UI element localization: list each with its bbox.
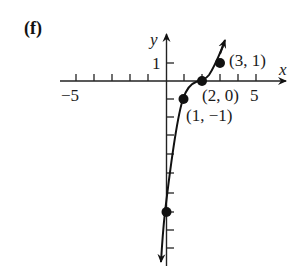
tick-label-neg5: −5 bbox=[61, 86, 79, 105]
tick-label-5: 5 bbox=[250, 86, 259, 105]
point-0-neg8 bbox=[162, 207, 172, 217]
point-3-1 bbox=[215, 58, 225, 68]
label-point-2-0: (2, 0) bbox=[202, 86, 239, 105]
tick-label-1: 1 bbox=[152, 54, 161, 73]
y-axis-label: y bbox=[148, 30, 158, 49]
label-point-1-neg1: (1, −1) bbox=[186, 106, 232, 125]
x-axis-label: x bbox=[278, 60, 287, 79]
point-2-0 bbox=[197, 76, 207, 86]
point-1-neg1 bbox=[179, 94, 189, 104]
curve-top-arrow bbox=[220, 40, 225, 54]
cubic-graph: y x 1 −5 5 (3, 1) (2, 0) (1, −1) bbox=[0, 0, 306, 266]
label-point-3-1: (3, 1) bbox=[229, 51, 266, 70]
